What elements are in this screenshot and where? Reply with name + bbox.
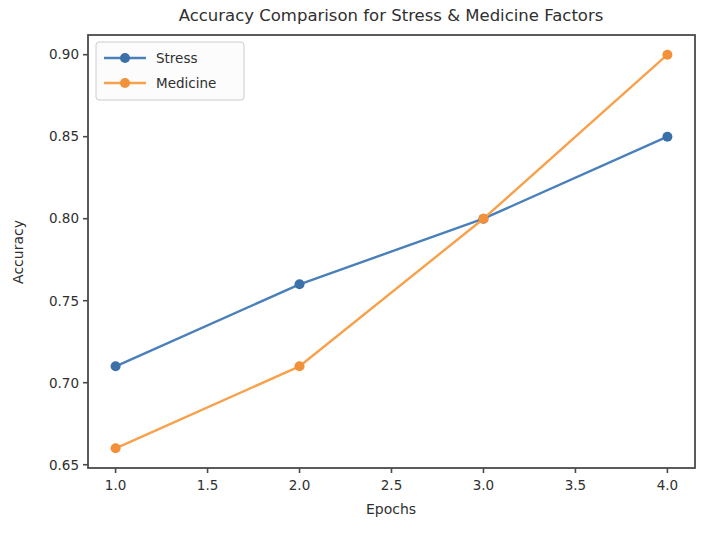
y-tick-label: 0.70 (49, 375, 79, 391)
y-tick-label: 0.90 (49, 46, 79, 62)
chart-title: Accuracy Comparison for Stress & Medicin… (179, 6, 604, 25)
y-tick-label: 0.80 (49, 210, 79, 226)
data-point-medicine (662, 50, 672, 60)
legend: Stress Medicine (96, 42, 244, 100)
legend-marker-medicine-icon (120, 78, 130, 88)
legend-label-stress: Stress (156, 50, 198, 66)
data-point-medicine (111, 443, 121, 453)
data-point-stress (662, 132, 672, 142)
data-point-medicine (478, 214, 488, 224)
x-tick-label: 1.5 (197, 477, 218, 493)
figure: 1.01.52.02.53.03.54.00.650.700.750.800.8… (0, 0, 702, 534)
y-tick-label: 0.65 (49, 457, 79, 473)
x-tick-label: 2.5 (381, 477, 402, 493)
data-point-stress (295, 279, 305, 289)
legend-marker-stress-icon (120, 53, 130, 63)
data-point-medicine (295, 361, 305, 371)
x-tick-label: 3.5 (565, 477, 586, 493)
plot-area: 1.01.52.02.53.03.54.00.650.700.750.800.8… (49, 35, 695, 493)
x-tick-label: 1.0 (105, 477, 126, 493)
y-axis-label: Accuracy (10, 220, 26, 284)
y-tick-label: 0.85 (49, 128, 79, 144)
x-axis-label: Epochs (366, 501, 416, 517)
x-tick-label: 3.0 (473, 477, 494, 493)
x-tick-label: 2.0 (289, 477, 310, 493)
legend-label-medicine: Medicine (156, 75, 216, 91)
data-point-stress (111, 361, 121, 371)
y-tick-label: 0.75 (49, 293, 79, 309)
chart: 1.01.52.02.53.03.54.00.650.700.750.800.8… (0, 0, 702, 534)
x-tick-label: 4.0 (657, 477, 678, 493)
series-line-stress (116, 137, 668, 367)
